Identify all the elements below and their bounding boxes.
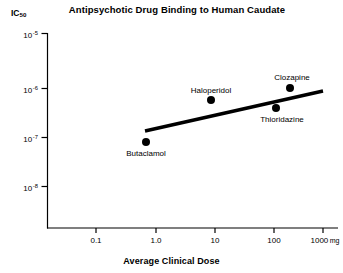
x-tick-label: 100 <box>267 236 280 245</box>
data-label-thioridazine: Thioridazine <box>260 115 304 124</box>
x-tick-label: 1.0 <box>150 236 161 245</box>
y-tick-label: 10-8 <box>4 182 38 193</box>
data-point-haloperidol <box>207 96 215 104</box>
trend-line <box>145 91 323 131</box>
data-point-clozapine <box>286 84 294 92</box>
data-point-butaclamol <box>142 138 150 146</box>
y-tick-label: 10-7 <box>4 133 38 144</box>
data-label-butaclamol: Butaclamol <box>126 149 166 158</box>
data-point-thioridazine <box>272 104 280 112</box>
data-label-clozapine: Clozapine <box>274 73 310 82</box>
y-tick-label: 10-5 <box>4 29 38 40</box>
x-tick-label: 0.1 <box>90 236 101 245</box>
y-tick-label: 10-6 <box>4 84 38 95</box>
chart-figure: Antipsychotic Drug Binding to Human Caud… <box>0 0 343 273</box>
x-tick-label: 10 <box>211 236 220 245</box>
plot-area <box>0 0 343 273</box>
data-label-haloperidol: Haloperidol <box>191 86 231 95</box>
x-axis-title: Average Clinical Dose <box>0 256 343 266</box>
x-tick-label: 1000mg <box>310 236 339 245</box>
